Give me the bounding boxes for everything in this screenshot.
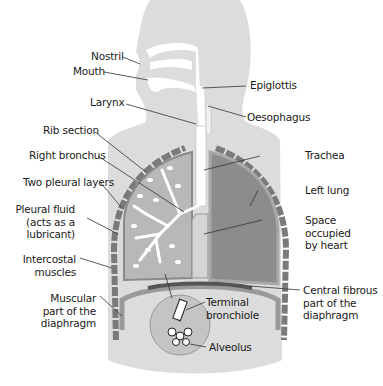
label-epiglottis: Epiglottis [250, 79, 297, 92]
label-line: part of the [41, 305, 96, 318]
label-left-lung: Left lung [305, 184, 349, 197]
label-terminal-bronchiole: Terminal bronchiole [206, 296, 259, 321]
label-line: Pleural fluid [15, 203, 75, 216]
label-line: part of the [303, 297, 377, 310]
label-line: (acts as a [15, 216, 75, 229]
label-line: diaphragm [303, 309, 377, 322]
label-nostril: Nostril [91, 50, 124, 63]
label-line: lubricant) [15, 228, 75, 241]
label-line: muscles [23, 266, 76, 279]
label-central-fibrous-diaphragm: Central fibrous part of the diaphragm [303, 284, 377, 322]
label-alveolus: Alveolus [209, 341, 252, 354]
label-trachea: Trachea [305, 149, 345, 162]
label-oesophagus: Oesophagus [247, 111, 310, 124]
label-line: occupied [305, 227, 351, 240]
label-line: by heart [305, 239, 351, 252]
label-line: Intercostal [23, 253, 76, 266]
label-space-occupied-by-heart: Space occupied by heart [305, 214, 351, 252]
trachea-tube [196, 126, 206, 206]
label-line: Terminal [206, 296, 259, 309]
label-larynx: Larynx [90, 96, 124, 109]
label-line: diaphragm [41, 317, 96, 330]
label-mouth: Mouth [73, 65, 105, 78]
label-rib-section: Rib section [43, 124, 99, 137]
label-right-bronchus: Right bronchus [29, 149, 106, 162]
heart-space [192, 214, 208, 278]
label-pleural-fluid: Pleural fluid (acts as a lubricant) [15, 203, 75, 241]
label-line: Central fibrous [303, 284, 377, 297]
label-muscular-part-of-diaphragm: Muscular part of the diaphragm [41, 292, 96, 330]
label-line: Muscular [41, 292, 96, 305]
label-line: Space [305, 214, 351, 227]
label-two-pleural-layers: Two pleural layers [23, 176, 114, 189]
oesophagus-tube [206, 104, 211, 134]
label-intercostal-muscles: Intercostal muscles [23, 253, 76, 278]
label-line: bronchiole [206, 309, 259, 322]
